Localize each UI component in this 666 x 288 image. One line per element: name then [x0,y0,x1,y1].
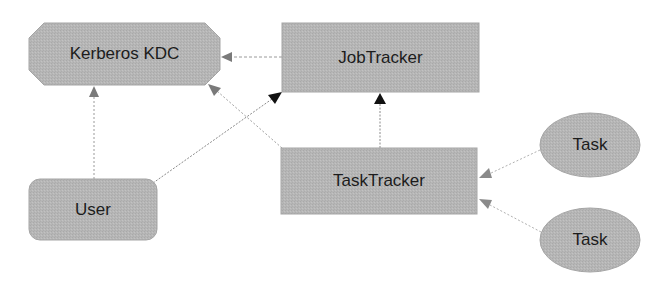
edge-task2-to-tasktracker [479,199,541,232]
edge-user-to-kerberos [89,86,99,179]
tasktracker-node[interactable] [281,148,477,214]
arrowhead-icon [479,199,492,209]
edge-user-to-jobtracker [153,92,282,183]
kerberos-kdc-node[interactable] [29,23,220,85]
architecture-diagram [0,0,666,288]
arrowhead-icon [221,52,232,62]
edge-tasktracker-to-jobtracker [374,93,386,148]
arrowhead-icon [89,86,99,97]
task-node-2[interactable] [540,208,640,272]
arrowhead-icon [208,84,221,96]
edge-tasktracker-to-kerberos [208,84,282,148]
arrowhead-icon [268,92,282,104]
user-node[interactable] [29,179,157,240]
jobtracker-node[interactable] [282,23,479,92]
arrowhead-icon [479,168,492,178]
task-node-1[interactable] [540,113,640,177]
nodes [29,23,640,272]
edge-jobtracker-to-kerberos [221,52,282,62]
arrowhead-icon [374,93,386,104]
edge-task1-to-tasktracker [479,150,540,178]
